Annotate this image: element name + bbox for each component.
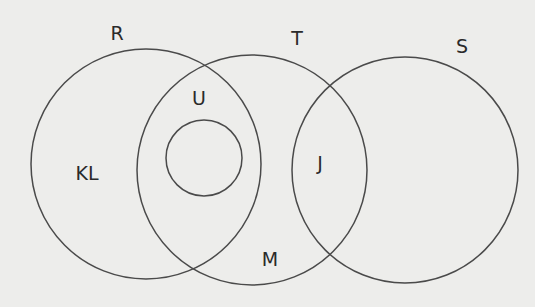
set-label-t: T — [291, 29, 303, 48]
circle-s — [292, 57, 518, 283]
circle-inner — [166, 120, 242, 196]
region-label-u: U — [192, 89, 206, 108]
circle-t — [137, 55, 367, 285]
region-label-kl: KL — [75, 164, 98, 183]
set-label-r: R — [110, 24, 123, 43]
venn-diagram: R T S U KL J M — [0, 0, 535, 307]
region-label-m: M — [262, 250, 278, 269]
circle-r — [31, 49, 261, 279]
set-label-s: S — [456, 37, 468, 56]
region-label-j: J — [317, 154, 323, 173]
